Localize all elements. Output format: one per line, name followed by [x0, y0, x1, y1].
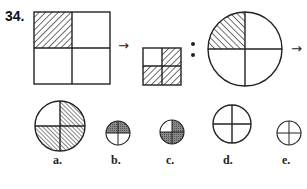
option-label: a. [53, 153, 62, 167]
option-c[interactable]: c. [160, 120, 184, 167]
puzzle-figure: 34. → → a. b [0, 0, 307, 189]
option-a[interactable]: a. [35, 101, 85, 167]
arrow-icon: → [291, 41, 302, 56]
arrow-icon: → [118, 38, 129, 53]
option-label: d. [223, 153, 233, 167]
colon-symbol [191, 42, 195, 57]
option-e[interactable]: e. [277, 121, 301, 167]
option-label: b. [111, 153, 121, 167]
big-square [34, 12, 110, 84]
option-label: e. [282, 153, 290, 167]
hatched-quadrant [162, 48, 181, 66]
small-square [143, 48, 181, 85]
hatched-quadrant [34, 12, 72, 48]
big-circle [208, 12, 282, 86]
question-number: 34. [5, 8, 24, 24]
option-label: c. [166, 153, 174, 167]
option-b[interactable]: b. [106, 121, 130, 167]
option-d[interactable]: d. [213, 105, 251, 167]
